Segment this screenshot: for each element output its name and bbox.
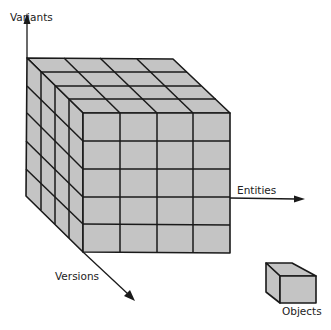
entities-axis	[230, 196, 305, 203]
objects-label: Objects	[282, 305, 322, 317]
variants-label: Variants	[10, 11, 53, 23]
entities-label: Entities	[237, 184, 276, 196]
data-cube-diagram: Entities Versions Variants Objects	[0, 0, 331, 330]
arrow-right-icon	[294, 196, 305, 203]
objects-legend-cube	[266, 263, 316, 303]
versions-label: Versions	[55, 270, 99, 282]
